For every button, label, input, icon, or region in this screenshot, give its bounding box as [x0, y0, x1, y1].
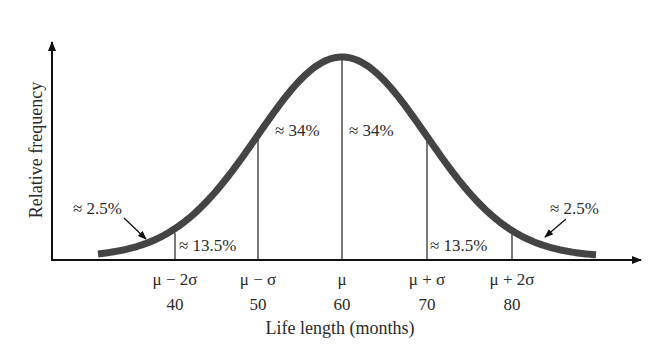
- normal-curve: [98, 57, 596, 255]
- x-axis-label: Life length (months): [266, 318, 415, 339]
- tick-symbol-mu-minus-sigma: μ − σ: [240, 271, 276, 288]
- region-label-60-70: ≈ 34%: [349, 122, 394, 139]
- region-label-50-60: ≈ 34%: [275, 122, 320, 139]
- tick-value-80: 80: [504, 296, 521, 313]
- tick-value-60: 60: [334, 296, 351, 313]
- tick-symbol-mu-plus-sigma: μ + σ: [409, 271, 445, 288]
- tick-symbol-mu-plus-2sigma: μ + 2σ: [490, 271, 535, 288]
- region-label-40-50: ≈ 13.5%: [179, 237, 237, 254]
- region-label-70-80: ≈ 13.5%: [430, 237, 488, 254]
- region-label-right-tail: ≈ 2.5%: [550, 200, 599, 217]
- tick-symbol-mu: μ: [337, 271, 346, 288]
- normal-distribution-chart: [0, 0, 650, 351]
- region-label-left-tail: ≈ 2.5%: [73, 200, 122, 217]
- right-tail-arrow: [545, 219, 566, 237]
- tick-symbol-mu-minus-2sigma: μ − 2σ: [153, 271, 198, 288]
- tick-value-70: 70: [419, 296, 436, 313]
- tick-value-50: 50: [250, 296, 267, 313]
- y-axis-label: Relative frequency: [26, 82, 47, 218]
- left-tail-arrow: [124, 218, 146, 239]
- tick-value-40: 40: [167, 296, 184, 313]
